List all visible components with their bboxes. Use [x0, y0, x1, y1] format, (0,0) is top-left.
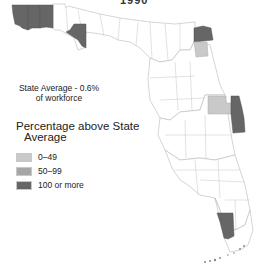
- county-okaloosa-high: [40, 5, 53, 28]
- county-brevard-high: [231, 96, 245, 133]
- legend-item-high: 100 or more: [16, 180, 84, 190]
- legend-item-mid: 50–99: [16, 166, 62, 176]
- state-average-line1: State Average - 0.6%: [16, 83, 102, 93]
- county-monroe-high: [217, 213, 234, 239]
- legend-swatch-high: [16, 181, 32, 190]
- legend-label-high: 100 or more: [38, 180, 84, 190]
- legend-title: Percentage above State Average: [16, 121, 146, 143]
- county-clay-low: [194, 42, 208, 57]
- legend-label-mid: 50–99: [38, 166, 62, 176]
- map-title: 1990: [120, 0, 148, 6]
- legend-title-line2: Average: [16, 132, 146, 143]
- county-duval-high: [194, 26, 213, 42]
- legend-label-low: 0–49: [38, 152, 57, 162]
- legend-swatch-mid: [16, 167, 32, 176]
- state-average-note: State Average - 0.6% of workforce: [16, 83, 102, 103]
- state-average-line2: of workforce: [16, 93, 102, 103]
- county-santa-rosa-high: [28, 5, 40, 30]
- county-southwest: [165, 150, 250, 230]
- legend-item-low: 0–49: [16, 152, 57, 162]
- legend-swatch-low: [16, 153, 32, 162]
- county-orange-low: [208, 96, 231, 114]
- county-escambia-high: [12, 5, 28, 30]
